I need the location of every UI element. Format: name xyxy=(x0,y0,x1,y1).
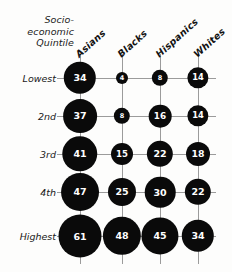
bubble-blacks-3rd: 15 xyxy=(111,143,133,165)
bubble-whites-4th: 22 xyxy=(185,179,211,205)
bubble-blacks-lowest: 4 xyxy=(116,72,128,84)
row-axis-title-line-3: Quintile xyxy=(2,37,74,49)
bubble-asians-3rd: 41 xyxy=(62,136,97,171)
row-label-3rd: 3rd xyxy=(4,149,56,160)
column-header-blacks: Blacks xyxy=(115,28,149,60)
bubble-blacks-2nd: 8 xyxy=(114,108,130,124)
bubble-hispanics-highest: 45 xyxy=(141,217,178,254)
bubble-blacks-highest: 48 xyxy=(103,217,141,255)
row-label-4th: 4th xyxy=(4,187,56,198)
row-axis-title: Socio- economic Quintile xyxy=(2,14,74,49)
bubble-hispanics-3rd: 22 xyxy=(147,141,173,167)
bubble-matrix-chart: Socio- economic Quintile AsiansBlacksHis… xyxy=(0,0,232,272)
bubble-whites-3rd: 18 xyxy=(186,142,210,166)
bubble-blacks-4th: 25 xyxy=(108,178,136,206)
bubble-whites-highest: 34 xyxy=(182,220,214,252)
bubble-hispanics-2nd: 16 xyxy=(149,105,172,128)
row-axis-title-line-2: economic xyxy=(2,26,74,38)
bubble-whites-lowest: 14 xyxy=(187,67,208,88)
bubble-asians-4th: 47 xyxy=(61,173,99,211)
bubble-hispanics-lowest: 8 xyxy=(152,70,168,86)
bubble-asians-2nd: 37 xyxy=(63,99,97,133)
row-label-lowest: Lowest xyxy=(4,73,56,84)
row-label-2nd: 2nd xyxy=(4,111,56,122)
column-header-whites: Whites xyxy=(191,26,227,60)
bubble-asians-lowest: 34 xyxy=(64,62,96,94)
column-header-asians: Asians xyxy=(73,27,107,59)
bubble-whites-2nd: 14 xyxy=(187,105,208,126)
bubble-hispanics-4th: 30 xyxy=(145,177,176,208)
row-label-highest: Highest xyxy=(4,231,56,242)
bubble-asians-highest: 61 xyxy=(59,215,102,258)
row-axis-title-line-1: Socio- xyxy=(2,14,74,26)
